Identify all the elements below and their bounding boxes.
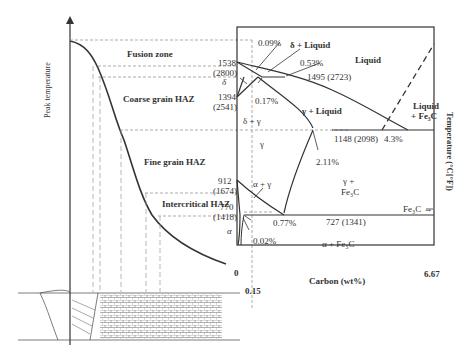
peak-temp-axis: [66, 16, 74, 345]
y-axis-label: Temperature (°C[°F]): [445, 112, 455, 191]
region-gamma: γ: [260, 139, 264, 149]
region-alpha-gamma: α + γ: [253, 179, 271, 189]
comp-017: 0.17%: [255, 96, 278, 106]
comp-077: 0.77%: [273, 218, 296, 228]
x-tick-0: 0: [234, 268, 239, 278]
temp-770f: (1418): [213, 212, 237, 222]
comp-002: 0.02%: [253, 236, 276, 246]
region-liquid-fe3c-1: Liquid: [413, 101, 439, 111]
temp-1538: 1538: [218, 58, 236, 68]
region-gamma-fe3c-2: Fe₃C: [341, 187, 359, 197]
zone-fine-grain: Fine grain HAZ: [144, 157, 206, 167]
x-axis-label: Carbon (wt%): [309, 276, 365, 286]
x-tick-667: 6.67: [424, 269, 440, 279]
temp-912: 912: [218, 176, 232, 186]
peak-temperature-curve: [70, 41, 226, 264]
region-delta: δ: [222, 77, 226, 87]
temp-1495: 1495 (2723): [307, 72, 351, 82]
region-fe3c: Fe₃C →: [403, 204, 432, 214]
temp-1394: 1394: [218, 92, 236, 102]
region-liquid: Liquid: [355, 55, 381, 65]
temp-912f: (1674): [213, 186, 237, 196]
weld-cross-section: [18, 290, 240, 340]
zone-coarse-grain: Coarse grain HAZ: [123, 94, 195, 104]
temp-727: 727 (1341): [326, 217, 366, 227]
region-alpha: α: [227, 226, 232, 236]
region-gamma-liquid: γ + Liquid: [302, 106, 342, 116]
region-gamma-fe3c-1: γ +: [343, 176, 354, 186]
comp-211: 2.11%: [316, 157, 339, 167]
region-delta-gamma: δ + γ: [243, 116, 261, 126]
x-tick-015: 0.15: [245, 286, 261, 296]
comp-009: 0.09%: [258, 38, 281, 48]
peak-temperature-label: Peak temperature: [43, 62, 53, 118]
comp-43: 4.3%: [384, 134, 403, 144]
temp-770: 770: [220, 202, 234, 212]
diagram-canvas: [0, 0, 469, 357]
zone-fusion: Fusion zone: [127, 49, 173, 59]
region-alpha-fe3c: α + Fe₃C: [322, 239, 354, 249]
region-delta-liquid: δ + Liquid: [290, 40, 330, 50]
temp-1394f: (2541): [213, 102, 237, 112]
region-liquid-fe3c-2: + Fe₃C: [411, 111, 437, 121]
temp-1148: 1148 (2098): [334, 134, 378, 144]
comp-053: 0.53%: [300, 58, 323, 68]
